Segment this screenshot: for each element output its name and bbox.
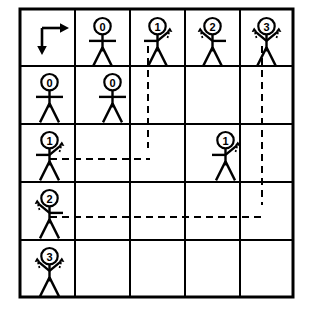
figure-label: 1 — [154, 21, 160, 33]
grid-diagram: 0123012301 — [0, 0, 312, 319]
figure-label: 0 — [46, 77, 52, 89]
figure-label: 2 — [209, 21, 215, 33]
figure-label: 3 — [46, 251, 52, 263]
figure-label: 2 — [46, 193, 52, 205]
diagram-canvas: 0123012301 — [0, 0, 312, 319]
figure-label: 3 — [263, 21, 269, 33]
figure-label: 1 — [222, 135, 228, 147]
figure-label: 0 — [99, 21, 105, 33]
figure-label: 0 — [109, 77, 115, 89]
figure-label: 1 — [46, 135, 52, 147]
